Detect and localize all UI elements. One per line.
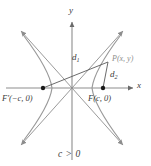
point-p-label: P(x, y) bbox=[112, 55, 133, 63]
distance-segment-d2 bbox=[103, 62, 108, 88]
right-focus-point bbox=[101, 86, 105, 90]
condition-caption: c > 0 bbox=[58, 150, 81, 160]
distance-d1-subscript: 1 bbox=[77, 57, 80, 63]
y-axis-label: y bbox=[69, 6, 73, 15]
distance-d2-subscript: 2 bbox=[115, 74, 118, 80]
hyperbola-figure: y x F'(−c, 0) F(c, 0) P(x, y) d1 d2 c > … bbox=[0, 0, 151, 166]
hyperbola-diagram-canvas bbox=[0, 0, 151, 166]
x-axis-label: x bbox=[137, 81, 141, 90]
right-focus-label: F(c, 0) bbox=[88, 94, 111, 103]
distance-d2-label: d2 bbox=[110, 70, 118, 80]
left-focus-point bbox=[41, 86, 45, 90]
distance-d1-label: d1 bbox=[72, 53, 80, 63]
left-focus-label: F'(−c, 0) bbox=[2, 94, 33, 103]
